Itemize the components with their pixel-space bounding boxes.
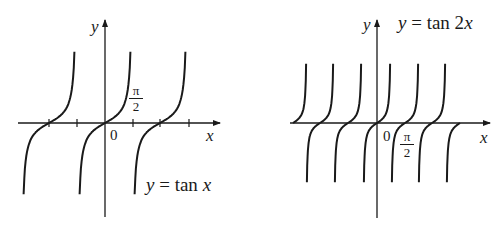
y-axis-label: y: [91, 18, 99, 35]
x-axis-label: x: [480, 129, 488, 146]
origin-label: 0: [110, 128, 118, 143]
tan-2x-plot-area: [252, 0, 504, 233]
pi-over-2-label: π 2: [400, 130, 414, 159]
tan-2x-graph: y x 0 π 2 y = tan 2x: [252, 0, 504, 233]
tan-x-graph: y x 0 π 2 y = tan x: [0, 0, 252, 233]
x-axis-label: x: [206, 127, 214, 144]
tan-2x-branch: [293, 64, 306, 123]
origin-label: 0: [383, 129, 391, 144]
tan-2x-branch: [447, 123, 460, 182]
pi-over-2-label: π 2: [129, 84, 143, 113]
equation-label: y = tan x: [146, 175, 211, 194]
y-axis-label: y: [363, 16, 371, 33]
equation-label: y = tan 2x: [398, 13, 473, 32]
tan-x-plot-area: [0, 0, 252, 233]
